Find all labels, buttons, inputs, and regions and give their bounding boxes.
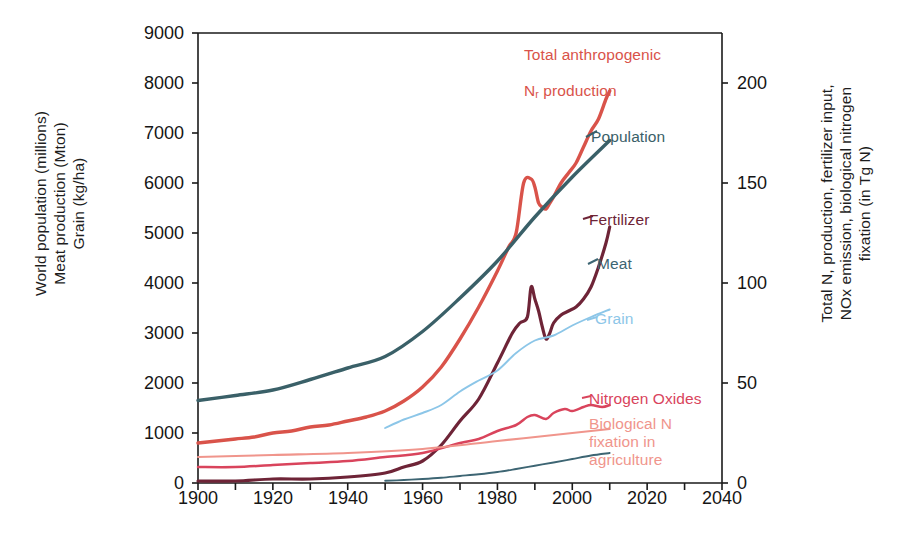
series-label-total-nr-line2-post: production [539, 82, 617, 99]
series-line-population [198, 141, 610, 401]
series-line-biological-n-fixation-in-agriculture [198, 429, 610, 457]
series-label-grain: Grain [595, 310, 633, 328]
series-line-total-anthropogenic-nr-production [198, 91, 610, 443]
series-label-population: Population [591, 128, 665, 146]
series-line-fertilizer [198, 227, 610, 481]
series-line-meat [385, 453, 610, 481]
series-label-total-nr: Total anthropogenic Nr production [524, 28, 661, 103]
series-label-total-nr-line2-pre: N [524, 82, 535, 99]
chart-figure: World population (millions) Meat product… [0, 0, 900, 539]
series-label-nitrogen-oxides: Nitrogen Oxides [589, 390, 702, 408]
plot-area [0, 0, 900, 539]
series-label-meat: Meat [597, 255, 632, 273]
series-label-bnf: Biological N fixation in agriculture [589, 415, 672, 469]
series-label-total-nr-line1: Total anthropogenic [524, 46, 661, 63]
series-label-fertilizer: Fertilizer [589, 211, 649, 229]
series-lines [198, 91, 610, 481]
